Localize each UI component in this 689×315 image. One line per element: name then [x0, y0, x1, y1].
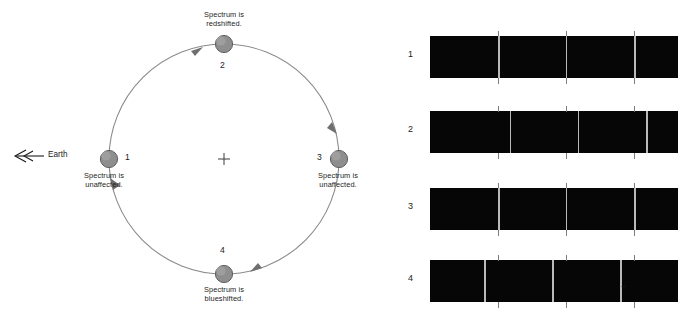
absorption-line-1a [498, 36, 500, 78]
body-position-3 [330, 150, 347, 167]
rest-tick-bottom-2a [498, 153, 499, 159]
orbit-center-marker [218, 153, 230, 165]
body-position-1 [100, 150, 117, 167]
absorption-line-3a [498, 188, 500, 230]
figure-root: Earth 1 2 3 4 Spectrum is unaffected. Sp… [0, 0, 689, 315]
rest-tick-bottom-3c [634, 230, 635, 236]
position-number-3: 3 [317, 152, 322, 162]
rest-tick-top-2b [566, 106, 567, 112]
caption-position-4: Spectrum is blueshifted. [176, 286, 272, 303]
spectrum-label-4: 4 [408, 273, 422, 283]
rest-tick-bottom-4b [566, 302, 567, 308]
spectra-panel: 1 2 [400, 0, 689, 315]
spectrum-row-4: 4 [400, 256, 689, 306]
rest-tick-top-4a [498, 255, 499, 261]
spectrum-bar-3 [430, 188, 678, 230]
rest-tick-bottom-2b [566, 153, 567, 159]
absorption-line-4b [552, 260, 554, 302]
rest-tick-bottom-3a [498, 230, 499, 236]
absorption-line-1b [566, 36, 568, 78]
absorption-line-3c [634, 188, 636, 230]
rest-tick-top-4b [566, 255, 567, 261]
spectrum-bar-4 [430, 260, 678, 302]
rest-tick-top-2a [498, 106, 499, 112]
position-number-2: 2 [220, 60, 225, 70]
caption-position-3: Spectrum is unaffected. [290, 172, 386, 189]
spectrum-row-1: 1 [400, 32, 689, 82]
rest-tick-bottom-1b [566, 78, 567, 84]
rest-tick-bottom-4a [498, 302, 499, 308]
orbital-diagram: Earth 1 2 3 4 Spectrum is unaffected. Sp… [0, 0, 400, 315]
rest-tick-top-2c [634, 106, 635, 112]
spectrum-row-3: 3 [400, 184, 689, 234]
rest-tick-bottom-4c [634, 302, 635, 308]
absorption-line-3b [566, 188, 568, 230]
body-position-2 [215, 35, 232, 52]
rest-tick-bottom-3b [566, 230, 567, 236]
absorption-line-2a [510, 111, 512, 153]
rest-tick-bottom-2c [634, 153, 635, 159]
spectrum-label-2: 2 [408, 124, 422, 134]
body-position-4 [215, 265, 232, 282]
spectrum-label-3: 3 [408, 201, 422, 211]
caption-position-2: Spectrum is redshifted. [176, 11, 272, 28]
earth-direction-arrow [15, 150, 44, 162]
spectrum-row-2: 2 [400, 107, 689, 157]
absorption-line-2c [646, 111, 648, 153]
earth-label: Earth [48, 150, 68, 159]
absorption-line-1c [634, 36, 636, 78]
spectrum-bar-2 [430, 111, 678, 153]
absorption-line-4a [484, 260, 486, 302]
spectrum-bar-1 [430, 36, 678, 78]
orbit-direction-arrow-right [327, 122, 337, 134]
absorption-line-2b [578, 111, 580, 153]
position-number-4: 4 [220, 245, 225, 255]
caption-position-1: Spectrum is unaffected. [56, 172, 152, 189]
scan-speck [621, 286, 626, 287]
rest-tick-bottom-1c [634, 78, 635, 84]
spectrum-label-1: 1 [408, 49, 422, 59]
orbit-direction-arrow-bottom [250, 263, 262, 272]
absorption-line-4c [620, 260, 622, 302]
rest-tick-bottom-1a [498, 78, 499, 84]
rest-tick-top-4c [634, 255, 635, 261]
position-number-1: 1 [125, 152, 130, 162]
